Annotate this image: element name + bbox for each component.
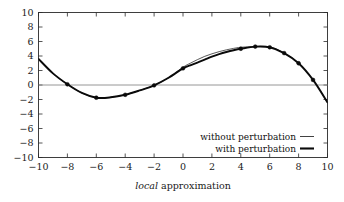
y-tick-label-10: 10 [21,7,33,18]
legend: without perturbationwith perturbation [200,132,314,154]
y-tick-label-3: −4 [19,108,33,119]
data-point-marker [94,96,98,100]
data-point-marker [253,45,257,49]
data-point-marker [123,93,127,97]
x-axis-title: local approximation [135,180,231,191]
x-tick-label-8: 6 [267,161,273,172]
legend-label-italic-with: with [215,144,238,154]
x-tick-label-5: 0 [180,161,186,172]
x-axis-title-roman: approximation [161,180,231,191]
data-point-marker [268,45,272,49]
series-group [39,45,328,103]
x-tick-label-1: −8 [60,161,74,172]
x-tick-label-9: 8 [296,161,302,172]
x-tick-label-7: 4 [238,161,244,172]
y-tick-label-0: −10 [13,152,33,163]
y-tick-label-1: −8 [19,137,33,148]
data-point-marker [66,82,70,86]
data-point-marker [297,61,301,65]
data-point-marker [181,66,185,70]
data-point-marker [239,47,243,51]
y-tick-label-9: 8 [27,21,33,32]
data-point-marker [282,51,286,55]
legend-label-roman-perturbation: perturbation [238,144,296,154]
data-point-marker [152,83,156,87]
series-markers [66,45,315,100]
legend-label-with-perturbation: with perturbation [215,144,296,154]
chart-svg: −10−8−6−4−20246810−10−8−6−4−20246810loca… [0,0,344,202]
y-tick-label-6: 2 [27,65,33,76]
x-axis-title-italic: local [135,180,161,191]
x-tick-label-2: −6 [89,161,103,172]
x-tick-label-4: −2 [147,161,161,172]
y-tick-label-7: 4 [27,50,33,61]
x-tick-label-10: 10 [321,161,333,172]
data-point-marker [311,78,315,82]
y-tick-label-8: 6 [27,36,33,47]
figure-container: −10−8−6−4−20246810−10−8−6−4−20246810loca… [0,0,344,202]
y-tick-label-2: −6 [19,123,33,134]
y-tick-label-4: −2 [19,94,33,105]
x-tick-label-3: −4 [118,161,132,172]
legend-label-without-perturbation: without perturbation [200,132,296,142]
y-tick-label-5: 0 [27,79,33,90]
x-tick-label-6: 2 [209,161,215,172]
